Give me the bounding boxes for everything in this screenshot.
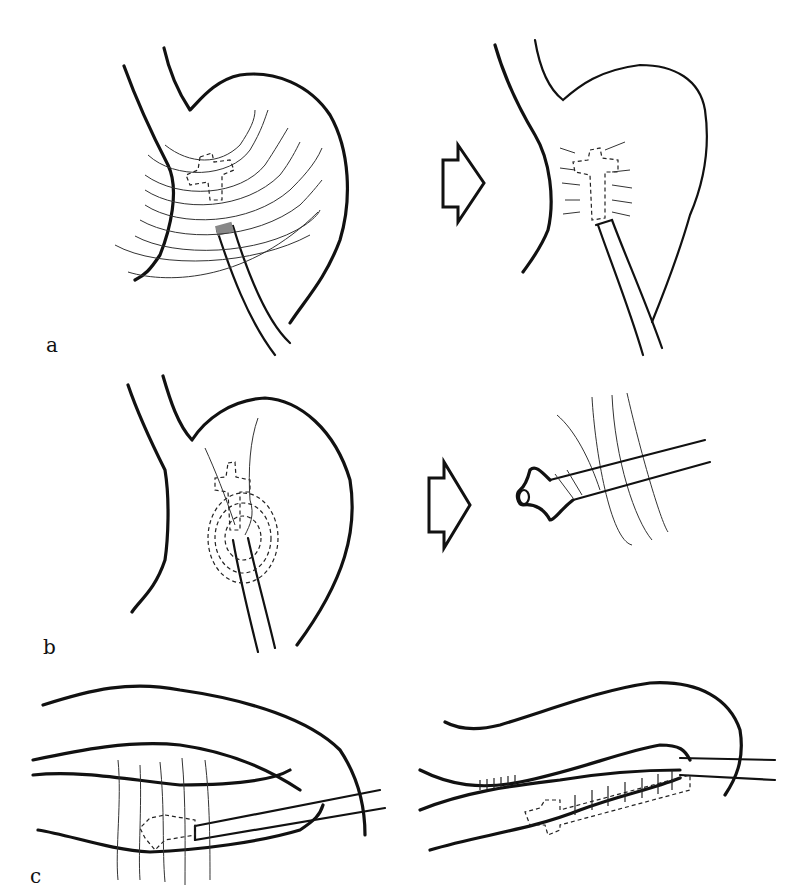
panel-label-b: b (43, 635, 56, 659)
panel-c-left-bowel (33, 686, 385, 885)
panel-c-right-bowel (420, 683, 775, 850)
panel-a-right-stomach (495, 40, 707, 355)
arrow-right-icon (443, 145, 484, 222)
panel-b-left-stomach (128, 376, 352, 652)
panel-b-right-tube-detail (517, 393, 710, 545)
surgical-illustration: a b (0, 0, 808, 895)
arrow-right-icon (429, 462, 470, 548)
panel-a-left-stomach (115, 48, 347, 355)
panel-label-a: a (46, 333, 58, 357)
sutures (115, 110, 322, 278)
panel-label-c: c (30, 864, 41, 888)
